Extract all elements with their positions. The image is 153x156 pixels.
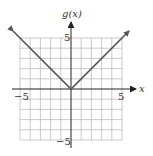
x-max-label: 5 xyxy=(118,91,124,102)
y-axis-label: g(x) xyxy=(62,8,82,19)
x-axis-label: x xyxy=(139,83,145,94)
y-min-label: −5 xyxy=(56,136,71,147)
y-max-label: 5 xyxy=(64,32,70,43)
graph: g(x) x −5 5 5 −5 xyxy=(0,0,153,156)
x-min-label: −5 xyxy=(14,91,29,102)
